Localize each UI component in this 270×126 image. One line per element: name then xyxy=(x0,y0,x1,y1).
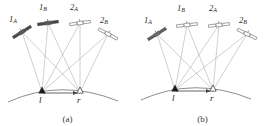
sight-line-1B-l xyxy=(175,25,187,90)
sight-lines-group-b xyxy=(157,25,247,90)
earth-arc-b xyxy=(141,88,251,100)
panel-caption-b: (b) xyxy=(135,114,270,124)
satellite-label-2A-a: 2A xyxy=(70,2,78,12)
sight-line-1B-l xyxy=(42,23,48,92)
satellite-label-2B-a: 2B xyxy=(100,15,108,25)
satellite-1A-a xyxy=(11,23,32,39)
satellite-label-1B-a: 1B xyxy=(39,2,47,12)
panel-a-canvas xyxy=(0,0,135,126)
sight-line-2A-r xyxy=(213,25,219,90)
earth-arc-a xyxy=(8,90,118,102)
satellite-label-1B-b: 1B xyxy=(177,3,185,13)
satellite-1B-a xyxy=(37,18,59,27)
satellite-label-1A-b: 1A xyxy=(144,15,152,25)
satellite-label-1A-a: 1A xyxy=(9,14,17,24)
satellite-2B-a xyxy=(98,26,119,41)
panel-b-canvas xyxy=(135,0,270,126)
sight-line-1A-r xyxy=(157,34,213,90)
sight-line-2B-r xyxy=(80,34,108,92)
figure-root: 1A 1B 2A 2B l r (a) xyxy=(0,0,270,126)
satellite-label-2B-b: 2B xyxy=(239,15,247,25)
panel-b: 1A 1B 2A 2B l r (b) xyxy=(135,0,270,126)
sight-line-1A-l xyxy=(157,34,175,90)
satellite-2A-b xyxy=(208,20,229,28)
ground-station-label-l-a: l xyxy=(39,95,42,105)
sight-lines-group-a xyxy=(22,23,108,92)
sight-line-2B-r xyxy=(213,34,247,90)
ground-station-label-r-b: r xyxy=(210,93,214,103)
sight-line-2B-l xyxy=(175,34,247,90)
sight-line-2A-l xyxy=(175,25,219,90)
satellite-2B-b xyxy=(237,26,258,40)
satellite-label-2A-b: 2A xyxy=(209,3,217,13)
ground-station-label-l-b: l xyxy=(172,93,175,103)
sight-line-1A-r xyxy=(22,32,80,92)
sight-line-1B-r xyxy=(187,25,213,90)
satellite-2A-a xyxy=(69,18,91,27)
satellite-1A-b xyxy=(146,25,167,41)
sight-line-2A-l xyxy=(42,23,80,92)
ground-station-label-r-a: r xyxy=(77,95,81,105)
panel-caption-a: (a) xyxy=(0,114,135,124)
sight-line-1A-l xyxy=(22,32,42,92)
panel-a: 1A 1B 2A 2B l r (a) xyxy=(0,0,135,126)
sight-line-1B-r xyxy=(48,23,80,92)
satellite-1B-b xyxy=(176,20,197,28)
